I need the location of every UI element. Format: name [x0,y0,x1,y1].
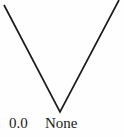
value-label: 0.0 [9,116,28,131]
v-shape-polyline [4,0,119,112]
figure-container: 0.0 None [0,0,124,137]
name-label: None [45,116,78,131]
